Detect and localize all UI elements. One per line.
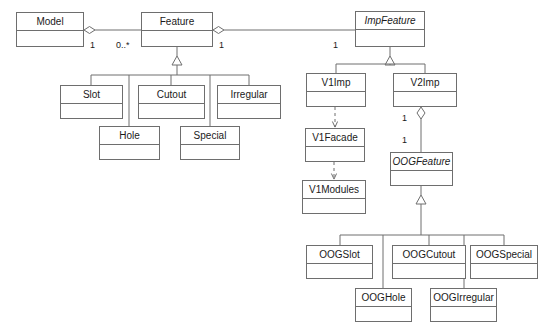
class-name-label: OOGSpecial — [471, 246, 537, 264]
class-name-label: V1Modules — [303, 181, 365, 199]
multiplicity-label-oogfeature-side: 1 — [402, 135, 407, 145]
relationship-edge-layer — [0, 0, 546, 334]
class-name-label: V2Imp — [394, 74, 456, 92]
class-attribute-compartment — [306, 147, 364, 161]
class-attribute-compartment — [218, 104, 280, 118]
uml-class-impfeature[interactable]: ImpFeature — [355, 11, 425, 47]
class-attribute-compartment — [142, 31, 212, 46]
class-name-label: Cutout — [139, 86, 204, 104]
class-attribute-compartment — [471, 264, 537, 278]
multiplicity-label-feature-side: 0..* — [116, 40, 130, 50]
class-name-label: OOGIrregular — [431, 289, 496, 307]
class-name-label: ImpFeature — [356, 12, 424, 30]
class-attribute-compartment — [17, 31, 83, 46]
uml-class-oogirregular[interactable]: OOGIrregular — [430, 288, 497, 322]
multiplicity-label-v2imp-side: 1 — [402, 113, 407, 123]
class-name-label: Special — [181, 127, 239, 145]
uml-class-v1modules[interactable]: V1Modules — [302, 180, 366, 214]
class-name-label: OOGCutout — [393, 246, 465, 264]
edge-feature-to-impfeature — [213, 27, 355, 34]
uml-class-oogfeature[interactable]: OOGFeature — [390, 152, 453, 186]
uml-class-slot[interactable]: Slot — [60, 85, 123, 119]
class-name-label: V1Facade — [306, 129, 364, 147]
class-name-label: Slot — [61, 86, 122, 104]
class-attribute-compartment — [391, 171, 452, 185]
class-name-label: OOGHole — [356, 289, 411, 307]
multiplicity-label-impfeature-side: 1 — [333, 40, 338, 50]
class-attribute-compartment — [303, 199, 365, 213]
class-attribute-compartment — [356, 30, 424, 46]
class-attribute-compartment — [394, 92, 456, 106]
class-name-label: V1Imp — [307, 74, 365, 92]
class-name-label: Irregular — [218, 86, 280, 104]
uml-class-hole[interactable]: Hole — [99, 126, 160, 160]
class-attribute-compartment — [61, 104, 122, 118]
class-attribute-compartment — [393, 264, 465, 278]
class-name-label: OOGFeature — [391, 153, 452, 171]
class-attribute-compartment — [100, 145, 159, 159]
uml-class-ooghole[interactable]: OOGHole — [355, 288, 412, 322]
uml-class-oogcutout[interactable]: OOGCutout — [392, 245, 466, 279]
uml-class-oogslot[interactable]: OOGSlot — [306, 245, 373, 279]
class-attribute-compartment — [356, 307, 411, 321]
uml-class-feature[interactable]: Feature — [141, 12, 213, 47]
multiplicity-label-model-side: 1 — [90, 40, 95, 50]
uml-class-v1imp[interactable]: V1Imp — [306, 73, 366, 107]
uml-class-cutout[interactable]: Cutout — [138, 85, 205, 119]
class-attribute-compartment — [307, 92, 365, 106]
edge-v2imp-to-oogfeature — [417, 107, 425, 152]
edge-impfeature-generalizations — [336, 47, 425, 73]
uml-class-v1facade[interactable]: V1Facade — [305, 128, 365, 162]
class-name-label: Feature — [142, 13, 212, 31]
uml-class-v2imp[interactable]: V2Imp — [393, 73, 457, 107]
class-attribute-compartment — [139, 104, 204, 118]
class-name-label: OOGSlot — [307, 246, 372, 264]
class-name-label: Hole — [100, 127, 159, 145]
uml-class-model[interactable]: Model — [16, 12, 84, 47]
class-attribute-compartment — [307, 264, 372, 278]
class-attribute-compartment — [181, 145, 239, 159]
class-name-label: Model — [17, 13, 83, 31]
uml-class-diagram: Model Feature ImpFeature Slot Cutout Irr… — [0, 0, 546, 334]
uml-class-irregular[interactable]: Irregular — [217, 85, 281, 119]
class-attribute-compartment — [431, 307, 496, 321]
multiplicity-label-feature-imp-source: 1 — [219, 40, 224, 50]
uml-class-special[interactable]: Special — [180, 126, 240, 160]
uml-class-oogspecial[interactable]: OOGSpecial — [470, 245, 538, 279]
edge-model-to-feature — [84, 27, 141, 34]
